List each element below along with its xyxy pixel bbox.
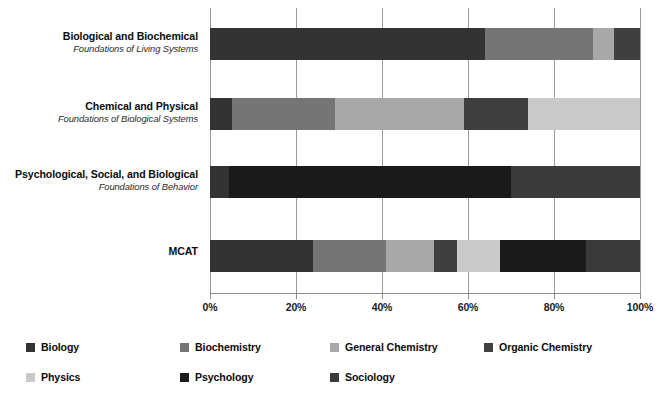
x-tick-mark — [210, 293, 211, 299]
legend-item[interactable]: Psychology — [180, 371, 253, 383]
bar-segment — [210, 166, 229, 198]
legend-item[interactable]: General Chemistry — [330, 341, 438, 353]
legend-item[interactable]: Physics — [26, 371, 80, 383]
bar-segment — [210, 28, 485, 60]
stacked-bar-chart: Biological and BiochemicalFoundations of… — [0, 0, 665, 412]
legend-item[interactable]: Organic Chemistry — [484, 341, 592, 353]
row-label: Chemical and PhysicalFoundations of Biol… — [0, 100, 198, 124]
stacked-bar — [210, 98, 640, 130]
bar-segment — [434, 240, 458, 272]
legend-label: Physics — [41, 371, 80, 383]
bar-segment — [485, 28, 593, 60]
bar-segment — [511, 166, 640, 198]
bar-segment — [528, 98, 640, 130]
stacked-bar — [210, 28, 640, 60]
legend-swatch-icon — [330, 373, 339, 382]
x-tick-mark — [554, 293, 555, 299]
legend-swatch-icon — [180, 343, 189, 352]
x-tick-label: 80% — [544, 301, 565, 313]
legend-swatch-icon — [330, 343, 339, 352]
bar-segment — [335, 98, 464, 130]
bar-segment — [229, 166, 511, 198]
legend-label: Psychology — [195, 371, 253, 383]
legend-label: Biochemistry — [195, 341, 261, 353]
x-tick-mark — [640, 293, 641, 299]
row-label-main: Chemical and Physical — [0, 100, 198, 113]
x-tick-mark — [296, 293, 297, 299]
legend-swatch-icon — [26, 343, 35, 352]
legend-item[interactable]: Biochemistry — [180, 341, 261, 353]
legend-item[interactable]: Biology — [26, 341, 79, 353]
bar-segment — [464, 98, 529, 130]
gridline-100 — [640, 8, 641, 293]
bar-segment — [457, 240, 500, 272]
legend-swatch-icon — [180, 373, 189, 382]
row-label: Psychological, Social, and BiologicalFou… — [0, 168, 198, 192]
chart-legend: BiologyBiochemistryGeneral ChemistryOrga… — [0, 341, 665, 401]
x-tick-label: 60% — [458, 301, 479, 313]
legend-label: Organic Chemistry — [499, 341, 592, 353]
bar-segment — [500, 240, 586, 272]
x-tick-label: 40% — [372, 301, 393, 313]
legend-label: Sociology — [345, 371, 395, 383]
bar-segment — [593, 28, 615, 60]
row-label-sub: Foundations of Living Systems — [0, 43, 198, 54]
legend-swatch-icon — [26, 373, 35, 382]
row-label-main: Psychological, Social, and Biological — [0, 168, 198, 181]
x-tick-mark — [382, 293, 383, 299]
bar-segment — [386, 240, 433, 272]
legend-label: General Chemistry — [345, 341, 438, 353]
stacked-bar — [210, 166, 640, 198]
x-tick-mark — [468, 293, 469, 299]
bar-segment — [210, 98, 232, 130]
x-axis-line — [210, 293, 641, 294]
bar-segment — [586, 240, 640, 272]
x-tick-label: 0% — [203, 301, 218, 313]
legend-swatch-icon — [484, 343, 493, 352]
row-label-main: MCAT — [0, 245, 198, 258]
bar-segment — [210, 240, 313, 272]
x-tick-label: 20% — [286, 301, 307, 313]
bar-segment — [614, 28, 640, 60]
row-label-main: Biological and Biochemical — [0, 30, 198, 43]
bar-segment — [313, 240, 386, 272]
row-label: Biological and BiochemicalFoundations of… — [0, 30, 198, 54]
stacked-bar — [210, 240, 640, 272]
bar-segment — [232, 98, 335, 130]
row-label-sub: Foundations of Biological Systems — [0, 113, 198, 124]
row-label: MCAT — [0, 245, 198, 258]
legend-item[interactable]: Sociology — [330, 371, 395, 383]
row-label-sub: Foundations of Behavior — [0, 181, 198, 192]
x-tick-label: 100% — [627, 301, 653, 313]
legend-label: Biology — [41, 341, 79, 353]
